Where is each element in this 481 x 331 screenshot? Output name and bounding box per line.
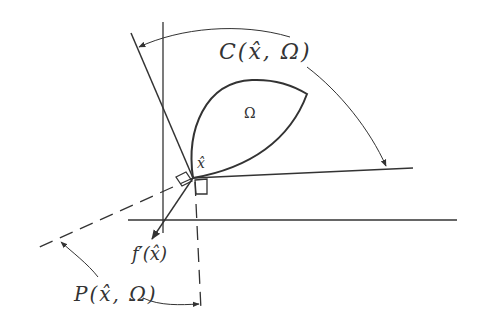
polar-cone-label: P(x̂, Ω) bbox=[74, 284, 158, 304]
point-label: x̂ bbox=[197, 156, 205, 170]
polar-cone-arc-left bbox=[61, 242, 98, 277]
polar-boundary-down bbox=[195, 182, 201, 310]
cone-boundary-left bbox=[131, 33, 193, 178]
tangent-cone-arc-right bbox=[307, 67, 386, 166]
tangent-cone-label: C(x̂, Ω) bbox=[219, 41, 312, 63]
omega-set-shape bbox=[192, 80, 307, 178]
right-angle-marker-right bbox=[195, 179, 207, 194]
omega-label: Ω bbox=[244, 106, 256, 120]
gradient-label: f′(x̂) bbox=[132, 245, 167, 263]
